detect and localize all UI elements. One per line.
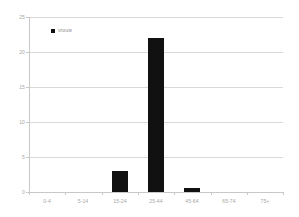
x-tick-mark-3: [138, 192, 139, 195]
x-tick-mark-5: [211, 192, 212, 195]
y-tick-mark-20: [26, 52, 29, 53]
y-tick-mark-10: [26, 122, 29, 123]
x-tick-label-25-44: 25-44: [136, 199, 176, 204]
x-tick-label-75-plus: 75+: [245, 199, 285, 204]
x-tick-mark-1: [65, 192, 66, 195]
y-tick-mark-5: [26, 157, 29, 158]
x-tick-mark-2: [102, 192, 103, 195]
gridline-0: [29, 192, 283, 193]
legend: vrouw: [51, 28, 72, 33]
x-tick-mark-7: [283, 192, 284, 195]
bar-chart: 25 20 15 10 5 0 0-4 5-14 15-24 25-44 45-…: [0, 0, 299, 217]
y-tick-label-10: 10: [3, 120, 25, 125]
y-axis-line: [29, 17, 30, 192]
bar-15-24[interactable]: [112, 171, 128, 192]
x-tick-label-0-4: 0-4: [27, 199, 67, 204]
bar-45-64[interactable]: [184, 188, 200, 192]
y-tick-mark-25: [26, 17, 29, 18]
x-tick-label-45-64: 45-64: [172, 199, 212, 204]
y-tick-label-25: 25: [3, 15, 25, 20]
legend-label-vrouw: vrouw: [58, 28, 72, 33]
x-tick-label-65-74: 65-74: [209, 199, 249, 204]
x-tick-mark-6: [247, 192, 248, 195]
y-tick-label-0: 0: [3, 190, 25, 195]
gridline-25: [29, 17, 283, 18]
x-tick-mark-0: [29, 192, 30, 195]
legend-swatch-icon: [51, 29, 55, 33]
y-tick-label-20: 20: [3, 50, 25, 55]
y-tick-label-5: 5: [3, 155, 25, 160]
x-tick-mark-4: [174, 192, 175, 195]
x-tick-label-15-24: 15-24: [100, 199, 140, 204]
y-tick-label-15: 15: [3, 85, 25, 90]
x-tick-label-5-14: 5-14: [63, 199, 103, 204]
bar-25-44[interactable]: [148, 38, 164, 192]
y-tick-mark-15: [26, 87, 29, 88]
plot-area: [29, 17, 283, 192]
